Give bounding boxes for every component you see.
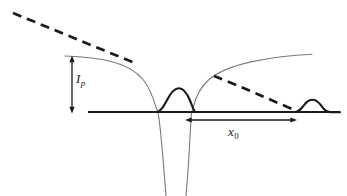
escaping-wave-packet [284,100,340,112]
physics-potential-figure: Ip x0 [0,0,347,196]
bound-wavefunction-lobe [157,88,196,112]
x0-symbol: x [228,124,234,139]
ionization-potential-label: Ip [76,72,85,88]
x0-arrow-head-right [290,118,297,123]
laser-field-line-right [214,76,298,112]
ip-subscript: p [80,78,85,88]
ionization-potential-arrow [69,56,74,114]
internuclear-distance-label: x0 [228,125,239,141]
x0-arrow-head-left [185,118,192,123]
x0-subscript: 0 [234,131,239,141]
potential-diagram-canvas [0,0,347,196]
coulomb-well-right-curve [186,54,312,196]
internuclear-distance-arrow [185,118,297,123]
ip-arrow-head-bottom [69,107,74,114]
